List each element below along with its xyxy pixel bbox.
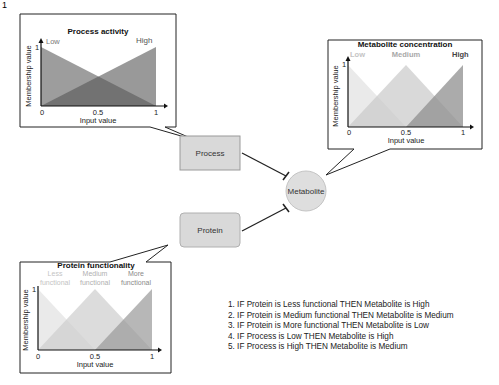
x-tick: 0 bbox=[36, 352, 40, 361]
x-tick: 0 bbox=[347, 128, 351, 137]
y-axis-label: Membership value bbox=[21, 289, 30, 350]
edge-protein-to-metabolite bbox=[242, 204, 289, 231]
rule-2: 2. IF Protein is Medium functional THEN … bbox=[228, 311, 454, 322]
legend-more-line1: More bbox=[128, 270, 144, 277]
x-axis-label: Input value bbox=[388, 136, 425, 145]
rule-5: 5. IF Process is High THEN Metabolite is… bbox=[228, 342, 454, 353]
x-axis-label: Input value bbox=[80, 116, 117, 125]
y-axis-label: Membership value bbox=[24, 45, 33, 106]
inhibition-bar-icon bbox=[283, 204, 289, 212]
y-axis-label: Membership value bbox=[331, 65, 340, 126]
rule-4: 4. IF Process is Low THEN Metabolite is … bbox=[228, 332, 454, 343]
node-metabolite: Metabolite bbox=[286, 171, 326, 211]
rule-1: 1. IF Protein is Less functional THEN Me… bbox=[228, 300, 454, 311]
legend-high: High bbox=[136, 36, 152, 45]
legend-medium-line1: Medium bbox=[83, 270, 108, 277]
x-tick: 0 bbox=[40, 108, 44, 117]
metabolite-label: Metabolite bbox=[288, 187, 325, 196]
legend-medium: Medium bbox=[392, 50, 421, 59]
legend-less-line1: Less bbox=[48, 270, 63, 277]
legend-more-line2: functional bbox=[121, 279, 151, 286]
x-tick: 1 bbox=[461, 128, 465, 137]
callout-protein-functionality: Protein functionality 1 Less functional … bbox=[20, 245, 171, 373]
x-axis-label: Input value bbox=[77, 360, 114, 369]
legend-medium-line2: functional bbox=[80, 279, 110, 286]
protein-label: Protein bbox=[197, 226, 222, 235]
rule-3: 3. IF Protein is More functional THEN Me… bbox=[228, 321, 454, 332]
y-tick: 1 bbox=[35, 43, 39, 52]
inhibition-bar-icon bbox=[283, 172, 289, 180]
process-label: Process bbox=[196, 149, 225, 158]
chart-title: Metabolite concentration bbox=[358, 40, 453, 49]
chart-title: Protein functionality bbox=[57, 261, 135, 270]
node-protein: Protein bbox=[180, 213, 240, 247]
legend-low: Low bbox=[350, 50, 365, 59]
x-tick: 1 bbox=[154, 108, 158, 117]
chart-title: Process activity bbox=[68, 27, 129, 36]
node-process: Process bbox=[180, 136, 240, 170]
x-tick: 1 bbox=[150, 352, 154, 361]
legend-low: Low bbox=[46, 37, 60, 46]
panel-label: 1 bbox=[2, 0, 7, 10]
callout-process-activity: Process activity 1 Low High 0 0.5 1 Inpu… bbox=[20, 14, 195, 140]
legend-less-line2: functional bbox=[40, 279, 70, 286]
callout-metabolite-concentration: Metabolite concentration 1 Low Medium Hi… bbox=[326, 40, 482, 175]
edge-process-to-metabolite bbox=[242, 153, 289, 180]
y-tick: 1 bbox=[32, 285, 36, 294]
y-tick: 1 bbox=[342, 60, 346, 69]
legend-high: High bbox=[452, 50, 469, 59]
fuzzy-rules-list: 1. IF Protein is Less functional THEN Me… bbox=[228, 300, 454, 353]
